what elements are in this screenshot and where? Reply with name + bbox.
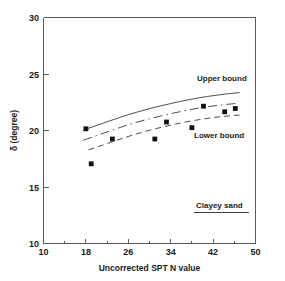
data-point xyxy=(84,126,89,131)
x-tick-label-4: 42 xyxy=(208,247,218,257)
data-point xyxy=(201,104,206,109)
lower-bound-label: Lower bound xyxy=(194,131,244,140)
y-axis-ticks xyxy=(44,18,49,244)
y-tick-label-0: 10 xyxy=(29,239,39,249)
y-tick-label-3: 25 xyxy=(29,70,39,80)
data-point xyxy=(233,106,238,111)
clayey-sand-label: Clayey sand xyxy=(196,201,243,210)
upper-bound-curve xyxy=(83,93,239,130)
x-tick-label-0: 10 xyxy=(38,247,48,257)
data-point xyxy=(190,125,195,130)
y-axis-tick-labels: 10 15 20 25 30 xyxy=(29,13,39,249)
y-tick-label-2: 20 xyxy=(29,126,39,136)
data-point xyxy=(152,137,157,142)
x-axis-tick-labels: 10 18 26 34 42 50 xyxy=(38,247,260,257)
scatter-plot-svg: 10 15 20 25 30 10 18 26 34 xyxy=(0,0,285,281)
data-point xyxy=(110,137,115,142)
y-tick-label-1: 15 xyxy=(29,183,39,193)
y-axis-title: δ (degree) xyxy=(9,110,19,151)
data-point xyxy=(222,109,227,114)
data-point xyxy=(164,120,169,125)
x-tick-label-1: 18 xyxy=(81,247,91,257)
y-tick-label-4: 30 xyxy=(29,13,39,23)
upper-bound-label: Upper bound xyxy=(197,74,247,83)
bound-curves xyxy=(83,93,239,150)
x-tick-label-2: 26 xyxy=(123,247,133,257)
x-tick-label-5: 50 xyxy=(250,247,260,257)
x-tick-label-3: 34 xyxy=(166,247,176,257)
x-axis-title: Uncorrected SPT N value xyxy=(99,263,201,273)
data-point xyxy=(89,161,94,166)
chart-figure: 10 15 20 25 30 10 18 26 34 xyxy=(0,0,285,281)
